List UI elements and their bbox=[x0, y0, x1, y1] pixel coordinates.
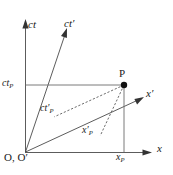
ct-P-tick-subscript: P bbox=[9, 82, 13, 89]
projection-P-to-x-prime-axis bbox=[100, 85, 124, 136]
ct-prime-P-subscript: P bbox=[50, 107, 54, 114]
ct-prime-axis-label: ct′ bbox=[64, 18, 74, 29]
minkowski-diagram-figure: ct ct′ x x′ P O, O′ ctP xP ct′P x′P bbox=[0, 0, 173, 175]
origin-label: O, O′ bbox=[4, 152, 28, 163]
ct-prime-P-label: ct′P bbox=[40, 103, 53, 113]
x-axis-label: x bbox=[157, 143, 162, 154]
ct-prime-P-base: ct′ bbox=[40, 102, 49, 113]
x-prime-axis-arrowhead bbox=[134, 97, 144, 105]
x-prime-P-base: x′ bbox=[82, 124, 89, 135]
ct-prime-axis-arrowhead bbox=[61, 28, 67, 38]
ct-axis-label: ct bbox=[28, 19, 36, 30]
x-prime-axis-label: x′ bbox=[146, 88, 153, 99]
ct-prime-axis-line bbox=[26, 36, 65, 152]
x-P-tick-base: x bbox=[116, 151, 120, 162]
x-P-tick-label: xP bbox=[116, 152, 124, 162]
x-P-tick-subscript: P bbox=[121, 156, 125, 163]
projection-P-to-ct-prime-axis bbox=[54, 85, 124, 117]
event-point-P-dot bbox=[121, 82, 127, 88]
x-prime-P-label: x′P bbox=[82, 125, 93, 135]
x-axis-arrowhead bbox=[143, 149, 153, 155]
ct-P-tick-label: ctP bbox=[2, 78, 13, 88]
x-prime-P-subscript: P bbox=[89, 129, 93, 136]
event-point-P-label: P bbox=[119, 68, 125, 79]
